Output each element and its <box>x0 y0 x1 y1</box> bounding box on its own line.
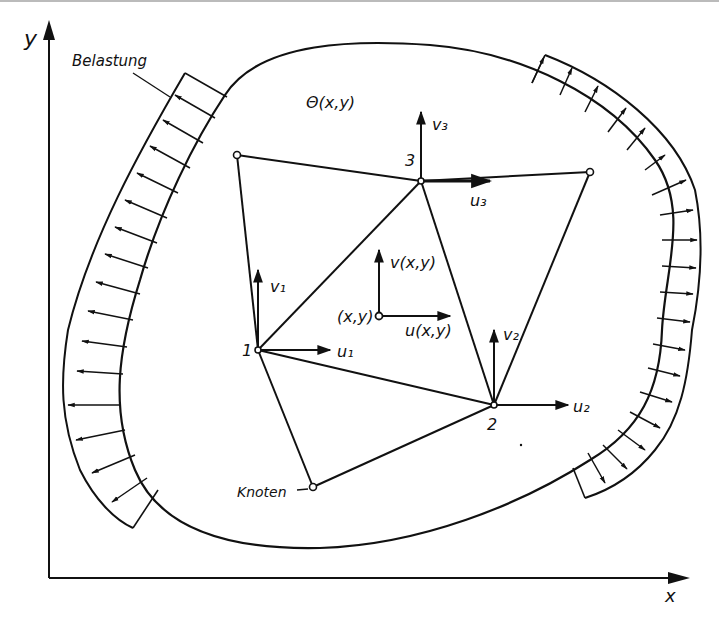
node-2-label: 2 <box>487 415 497 434</box>
domain-label: Θ(x,y) <box>306 93 355 112</box>
v1-label: v₁ <box>270 277 286 296</box>
u3-label: u₃ <box>470 191 487 210</box>
v3-label: v₃ <box>432 115 448 134</box>
node-3-label: 3 <box>405 151 415 170</box>
node-2 <box>491 402 497 408</box>
node-1-label: 1 <box>242 341 252 360</box>
node-top-right <box>587 169 594 176</box>
node-top-left <box>234 152 241 159</box>
load-leader-line <box>133 73 170 97</box>
field-point-label: (x,y) <box>337 307 374 326</box>
load-distribution-right <box>532 55 701 498</box>
node-knoten <box>310 484 317 491</box>
fem-diagram: y x Belastung <box>0 0 719 617</box>
knoten-label: Knoten <box>237 484 287 500</box>
u2-label: u₂ <box>573 397 590 416</box>
domain-boundary <box>120 43 674 548</box>
load-label: Belastung <box>72 52 147 70</box>
field-point <box>376 313 383 320</box>
speck <box>520 444 522 446</box>
node-1 <box>255 347 261 353</box>
u1-label: u₁ <box>337 342 354 361</box>
v-xy-label: v(x,y) <box>390 253 436 272</box>
y-axis-label: y <box>23 26 38 51</box>
coordinate-axes <box>43 20 690 584</box>
u-xy-label: u(x,y) <box>405 321 452 340</box>
x-axis-label: x <box>664 585 676 606</box>
node-3 <box>418 178 424 184</box>
load-distribution-left <box>63 73 227 528</box>
v2-label: v₂ <box>503 325 519 344</box>
knoten-leader-line <box>297 489 308 490</box>
